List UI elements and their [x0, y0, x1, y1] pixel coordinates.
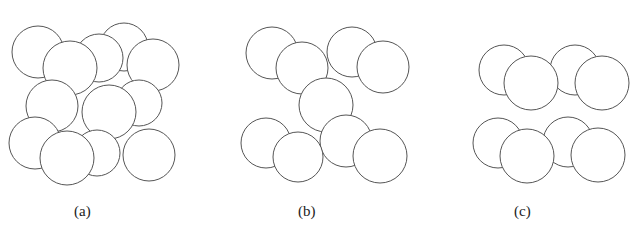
caption-b: (b): [298, 203, 316, 220]
sphere: [357, 41, 409, 93]
sphere: [504, 56, 558, 110]
caption-c: (c): [514, 203, 531, 220]
sphere: [500, 129, 554, 183]
panel-a: [9, 23, 179, 185]
panel-b: [241, 27, 409, 183]
sphere: [40, 131, 94, 185]
sphere: [575, 56, 629, 110]
sphere-packing-diagram: (a) (b) (c): [0, 0, 642, 244]
caption-a: (a): [74, 203, 91, 220]
sphere: [571, 128, 625, 182]
sphere: [273, 132, 323, 182]
panel-c: [473, 45, 629, 183]
sphere: [123, 129, 175, 181]
sphere: [353, 129, 407, 183]
